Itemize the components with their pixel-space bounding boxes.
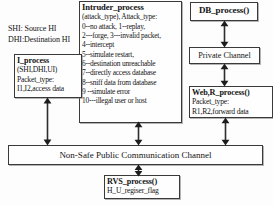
intruder-line-7: 8--sniff data from database <box>82 78 180 87</box>
rvs-process-title: RVS_process() <box>107 177 178 186</box>
i-process-line-1: Packet_type: <box>17 75 80 85</box>
rvs-process-line-0: H_U_regiser_flag <box>107 186 178 195</box>
web-r-process-line-1: R1,R2,forward data <box>192 107 271 116</box>
i-process-line-0: (SHI,DHI,UI) <box>17 65 80 75</box>
private-channel-box[interactable]: Private Channel <box>189 47 260 64</box>
diagram-canvas: SHI: Source HI DHI:Destination HI Intrud… <box>0 0 273 205</box>
intruder-line-6: 7--directly access database <box>82 68 180 77</box>
intruder-line-1: 0--no attack, 1--replay, <box>82 22 180 31</box>
rvs-process-box[interactable]: RVS_process() H_U_regiser_flag <box>104 175 180 199</box>
public-channel-bar[interactable]: Non-Safe Public Communication Channel <box>8 145 263 165</box>
intruder-line-0: (attack_type), Attack_type: <box>82 12 180 21</box>
intruder-line-2: 2---forge, 3---invalid packet, <box>82 31 180 40</box>
connector-i-process-to-public-channel <box>41 97 54 146</box>
db-process-title: DB_process() <box>191 3 257 15</box>
private-channel-label: Private Channel <box>190 48 259 64</box>
connector-intruder-to-public-channel <box>132 121 145 146</box>
web-r-process-box[interactable]: Web,R_process() Packet_type: R1,R2,forwa… <box>189 86 273 118</box>
legend-line-dhi: DHI:Destination HI <box>8 35 70 46</box>
legend-line-shi: SHI: Source HI <box>8 24 70 35</box>
intruder-process-title: Intruder_process <box>82 3 180 12</box>
intruder-line-9: 10---illegal user or host <box>82 96 180 105</box>
web-r-process-line-0: Packet_type: <box>192 97 271 106</box>
i-process-line-2: I1,I2,access data <box>17 84 80 94</box>
intruder-line-4: 5--simulate restart, <box>82 50 180 59</box>
intruder-line-3: 4--intercept <box>82 40 180 49</box>
intruder-line-5: 6--destination unreachable <box>82 59 180 68</box>
web-r-process-title: Web,R_process() <box>192 88 271 97</box>
i-process-title: I_process <box>17 56 80 65</box>
connector-rvs-to-public-channel <box>132 164 145 177</box>
intruder-process-box[interactable]: Intruder_process (attack_type), Attack_t… <box>79 1 182 123</box>
legend: SHI: Source HI DHI:Destination HI <box>8 24 70 45</box>
db-process-box[interactable]: DB_process() <box>190 2 258 21</box>
i-process-box[interactable]: I_process (SHI,DHI,UI) Packet_type: I1,I… <box>14 54 82 98</box>
public-channel-label: Non-Safe Public Communication Channel <box>9 146 262 165</box>
connector-web-to-public-channel <box>219 117 232 146</box>
intruder-line-8: 9 --simulate error <box>82 87 180 96</box>
connector-private-channel-to-web <box>218 63 231 87</box>
connector-db-to-private-channel <box>218 20 231 48</box>
